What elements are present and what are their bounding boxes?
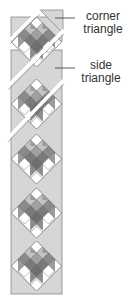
corner-triangle-label: corner triangle bbox=[78, 10, 128, 36]
side-triangle-label: side triangle bbox=[76, 59, 126, 85]
quilt-strip-diagram bbox=[0, 0, 129, 301]
side-label-line2: triangle bbox=[76, 72, 126, 85]
corner-label-line2: triangle bbox=[78, 23, 128, 36]
